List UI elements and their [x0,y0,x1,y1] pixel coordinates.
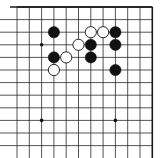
board-background [0,0,160,158]
white-stone-icon[interactable] [73,39,84,50]
go-board [0,0,160,158]
black-stone-icon[interactable] [110,64,121,75]
star-point-icon [40,119,44,123]
white-stone-icon[interactable] [61,52,72,63]
black-stone-icon[interactable] [85,39,96,50]
black-stone-icon[interactable] [48,52,59,63]
star-point-icon [114,119,118,123]
star-point-icon [40,43,44,47]
white-stone-icon[interactable] [48,64,59,75]
white-stone-icon[interactable] [85,27,96,38]
black-stone-icon[interactable] [110,27,121,38]
black-stone-icon[interactable] [48,27,59,38]
black-stone-icon[interactable] [110,39,121,50]
white-stone-icon[interactable] [98,27,109,38]
black-stone-icon[interactable] [85,52,96,63]
